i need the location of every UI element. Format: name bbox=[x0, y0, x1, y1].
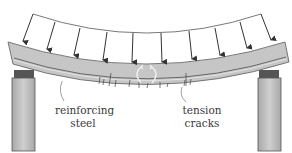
steel-leader-line bbox=[60, 81, 64, 101]
load-arrow-icon bbox=[74, 28, 80, 55]
load-arrow-icon bbox=[161, 33, 162, 62]
beam-diagram: reinforcing steel tension cracks bbox=[0, 0, 292, 153]
load-arrow-icon bbox=[215, 28, 220, 55]
reinforcing-steel-label: reinforcing steel bbox=[55, 104, 111, 130]
right-support-cap bbox=[259, 70, 279, 78]
load-curve bbox=[33, 14, 261, 33]
left-support bbox=[12, 70, 35, 151]
load-arrow-icon bbox=[240, 22, 247, 48]
load-arrow-icon bbox=[47, 22, 55, 49]
label-line: cracks bbox=[180, 117, 224, 130]
load-arrow-icon bbox=[23, 14, 33, 41]
load-arrow-icon bbox=[103, 32, 107, 60]
load-arrow-icon bbox=[132, 33, 133, 62]
label-line: reinforcing bbox=[55, 104, 111, 117]
left-support-cap bbox=[14, 70, 34, 78]
label-line: steel bbox=[55, 117, 111, 130]
load-arrow-icon bbox=[189, 31, 192, 59]
beam-diagram-svg bbox=[0, 0, 292, 153]
right-support bbox=[258, 70, 281, 151]
tension-cracks-label: tension cracks bbox=[180, 104, 224, 130]
load-arrow-icon bbox=[261, 14, 271, 40]
label-line: tension bbox=[180, 104, 224, 117]
cracks-leader-line bbox=[181, 87, 186, 102]
concrete-beam bbox=[8, 42, 289, 85]
